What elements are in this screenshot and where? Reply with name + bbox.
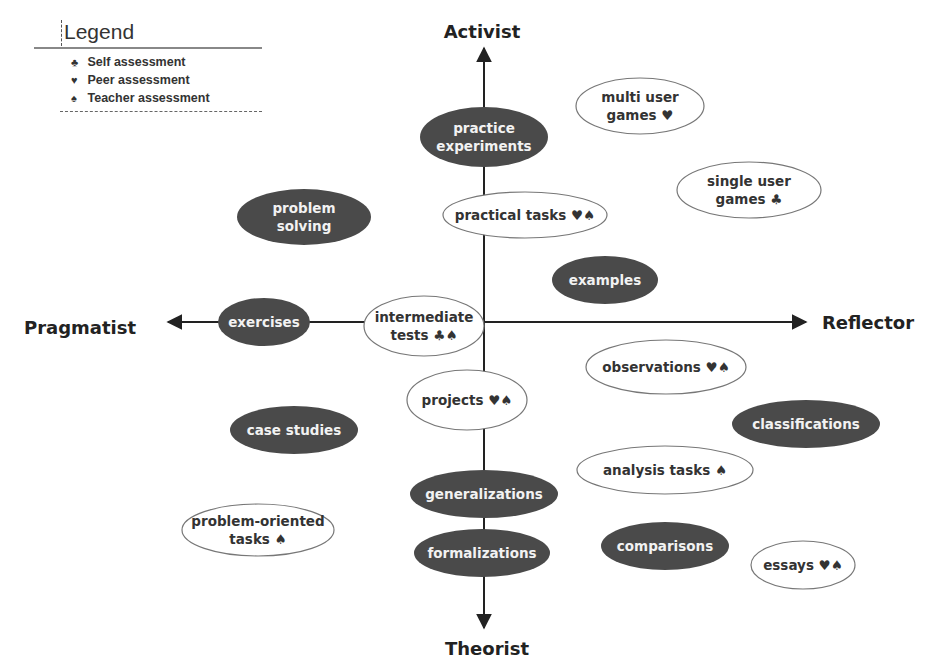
node-comparisons: comparisons — [601, 522, 729, 570]
axis-label-theorist: Theorist — [445, 638, 529, 659]
node-practical-tasks: practical tasks ♥♠ — [443, 192, 607, 238]
node-essays: essays ♥♠ — [751, 541, 855, 589]
node-ellipse — [677, 162, 821, 218]
node-label: exercises — [228, 314, 300, 330]
node-label: observations ♥♠ — [602, 359, 730, 375]
node-analysis-tasks: analysis tasks ♠ — [577, 446, 753, 494]
node-label: games ♥ — [607, 107, 674, 123]
node-label: intermediate — [375, 309, 474, 325]
node-label: comparisons — [617, 538, 713, 554]
node-ellipse — [237, 189, 371, 245]
node-label: multi user — [601, 89, 679, 105]
node-label: generalizations — [425, 486, 543, 502]
node-ellipse — [364, 296, 484, 356]
node-multi-user-games: multi usergames ♥ — [576, 78, 704, 134]
node-ellipse — [420, 107, 548, 167]
node-label: classifications — [752, 416, 860, 432]
node-ellipse — [182, 504, 334, 556]
nodes-layer: practiceexperimentspractical tasks ♥♠mul… — [182, 78, 880, 589]
node-label: practice — [453, 120, 515, 136]
node-label: games ♣ — [716, 191, 783, 207]
node-problem-oriented-tasks: problem-orientedtasks ♠ — [182, 504, 334, 556]
axis-label-pragmatist: Pragmatist — [24, 317, 136, 338]
node-label: tests ♣♠ — [390, 327, 457, 343]
node-exercises: exercises — [218, 298, 310, 346]
node-label: formalizations — [427, 545, 536, 561]
node-single-user-games: single usergames ♣ — [677, 162, 821, 218]
axis-label-reflector: Reflector — [822, 312, 914, 333]
node-label: tasks ♠ — [229, 531, 286, 547]
node-observations: observations ♥♠ — [586, 340, 746, 394]
node-label: problem-oriented — [191, 513, 324, 529]
node-label: experiments — [436, 138, 531, 154]
node-generalizations: generalizations — [410, 470, 558, 518]
node-case-studies: case studies — [230, 406, 358, 454]
node-label: single user — [707, 173, 791, 189]
node-formalizations: formalizations — [414, 529, 550, 577]
node-classifications: classifications — [732, 400, 880, 448]
node-label: projects ♥♠ — [422, 392, 513, 408]
node-examples: examples — [552, 256, 658, 304]
learning-styles-diagram: Activist Theorist Pragmatist Reflector p… — [0, 0, 925, 669]
node-label: practical tasks ♥♠ — [455, 207, 595, 223]
axis-label-activist: Activist — [444, 21, 521, 42]
node-problem-solving: problemsolving — [237, 189, 371, 245]
node-label: examples — [569, 272, 642, 288]
node-ellipse — [576, 78, 704, 134]
node-label: essays ♥♠ — [763, 557, 843, 573]
node-label: solving — [277, 218, 332, 234]
node-projects: projects ♥♠ — [407, 370, 527, 430]
node-label: analysis tasks ♠ — [603, 462, 727, 478]
node-practice-experiments: practiceexperiments — [420, 107, 548, 167]
node-label: case studies — [247, 422, 342, 438]
node-intermediate-tests: intermediatetests ♣♠ — [364, 296, 484, 356]
node-label: problem — [272, 200, 335, 216]
